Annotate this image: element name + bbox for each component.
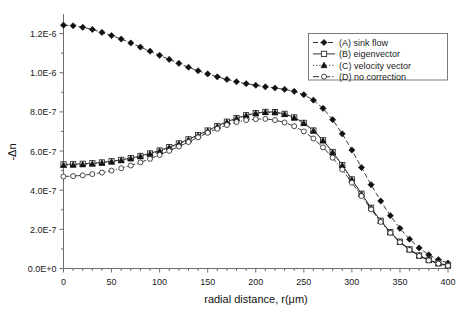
data-point-marker [70,23,76,29]
data-point-marker [80,173,85,178]
data-point-marker [378,219,383,224]
data-point-marker [157,152,162,157]
data-point-marker [321,145,326,150]
data-point-marker [157,52,163,58]
data-point-marker [282,120,287,125]
data-point-marker [322,74,327,79]
data-point-marker [138,160,143,165]
legend-label: (C) velocity vector [339,61,411,71]
data-point-marker [90,172,95,177]
data-point-marker [166,56,172,62]
data-point-marker [262,84,268,90]
data-point-marker [205,71,211,77]
series-line [64,112,449,265]
data-point-marker [436,261,441,266]
data-point-marker [417,253,422,258]
data-point-marker [358,164,364,170]
chart-container: 0.0E+02.0E-74.0E-76.0E-78.0E-71.0E-61.2E… [0,0,464,318]
data-point-marker [339,131,345,137]
data-point-marker [263,116,268,121]
data-point-marker [176,144,181,149]
data-point-marker [99,29,105,35]
series-line [64,119,449,266]
data-point-marker [185,64,191,70]
series-2 [61,109,451,268]
series-line [64,112,449,265]
data-point-marker [214,74,220,80]
data-point-marker [387,213,393,219]
data-point-marker [233,79,239,85]
data-point-marker [253,117,258,122]
data-point-marker [243,81,249,87]
data-point-marker [167,148,172,153]
data-point-marker [253,82,259,88]
data-point-marker [349,147,355,153]
data-point-marker [71,174,76,179]
data-point-marker [60,22,66,28]
data-point-marker [388,230,393,235]
data-point-marker [426,258,431,263]
x-axis-title: radial distance, r(μm) [204,293,308,305]
data-point-marker [118,36,124,42]
x-tick-label: 100 [152,277,167,287]
data-point-marker [186,140,191,145]
x-axis-ticks: 050100150200250300350400 [61,269,456,287]
x-tick-label: 400 [440,277,455,287]
data-point-marker [272,85,278,91]
data-point-marker [244,118,249,123]
data-point-marker [215,126,220,131]
data-point-marker [128,163,133,168]
data-point-marker [109,168,114,173]
data-point-marker [205,130,210,135]
y-tick-label: 2.0E-7 [30,225,57,235]
data-point-marker [330,155,335,160]
data-point-marker [321,51,326,56]
data-point-marker [416,245,422,251]
data-point-marker [369,207,374,212]
data-point-marker [128,40,134,46]
x-tick-label: 200 [248,277,263,287]
data-point-marker [272,118,277,123]
data-point-marker [378,198,384,204]
data-point-marker [196,135,201,140]
data-point-marker [224,123,229,128]
y-tick-label: 4.0E-7 [30,186,57,196]
data-point-marker [349,180,354,185]
data-point-marker [234,120,239,125]
data-point-marker [224,76,230,82]
chart-plot: 0.0E+02.0E-74.0E-76.0E-78.0E-71.0E-61.2E… [0,0,464,318]
y-tick-label: 6.0E-7 [30,147,57,157]
data-point-marker [148,156,153,161]
data-point-marker [340,167,345,172]
data-point-marker [89,26,95,32]
data-point-marker [359,194,364,199]
x-tick-label: 150 [200,277,215,287]
x-tick-label: 250 [296,277,311,287]
y-axis-title: -Δn [6,143,18,160]
data-point-marker [397,240,402,245]
data-point-marker [281,86,287,92]
y-axis-ticks: 0.0E+02.0E-74.0E-76.0E-78.0E-71.0E-61.2E… [28,29,64,274]
x-tick-label: 50 [107,277,117,287]
data-point-marker [99,170,104,175]
x-tick-label: 300 [344,277,359,287]
data-point-marker [291,88,297,94]
legend-label: (B) eigenvector [339,49,400,59]
data-point-marker [292,124,297,129]
x-tick-label: 350 [392,277,407,287]
data-point-marker [407,247,412,252]
data-point-marker [61,174,66,179]
data-point-marker [446,263,451,268]
data-point-marker [368,182,374,188]
series-4 [61,116,451,268]
data-point-marker [137,44,143,50]
y-tick-label: 0.0E+0 [28,264,57,274]
y-tick-label: 8.0E-7 [30,107,57,117]
legend-label: (A) sink flow [339,38,389,48]
data-point-marker [147,48,153,54]
data-point-marker [119,166,124,171]
y-tick-label: 1.2E-6 [30,29,57,39]
legend-label: (D) no correction [339,72,406,82]
chart-legend: (A) sink flow(B) eigenvector(C) velocity… [309,34,448,83]
data-point-marker [195,68,201,74]
